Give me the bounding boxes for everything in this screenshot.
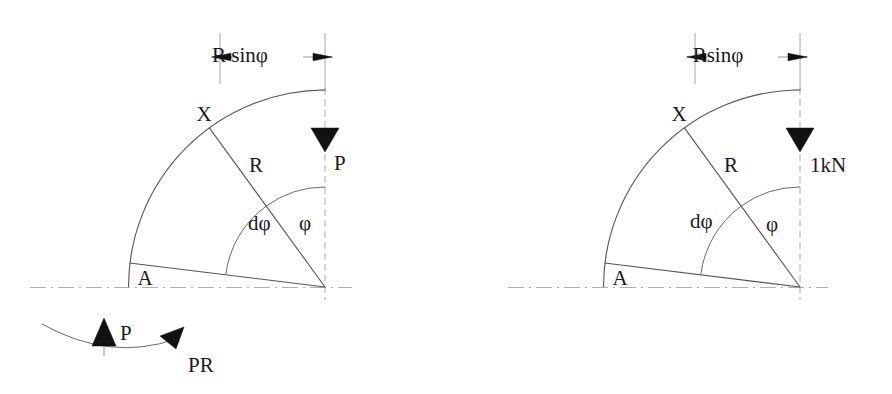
right-point-x-label: X — [671, 102, 686, 126]
left-point-x-label: X — [196, 102, 211, 126]
left-reaction-arrow — [92, 318, 116, 346]
right-angle-arc-phi — [741, 187, 800, 206]
left-radius-label: R — [249, 153, 263, 177]
left-angle-dphi-label: dφ — [248, 211, 271, 235]
left-load-arrow — [311, 128, 339, 152]
left-angle-arc-phi — [266, 187, 325, 206]
right-radius-to-x — [684, 128, 800, 287]
left-diagram-group: X A R dφ φ P R sinφ P PR — [30, 33, 352, 377]
right-radius-label: R — [724, 153, 738, 177]
left-moment-arrow — [160, 327, 184, 349]
left-load-label: P — [334, 151, 346, 175]
right-angle-dphi-label: dφ — [690, 209, 713, 233]
left-dimension-label: R sinφ — [212, 43, 268, 67]
left-outer-arc — [129, 90, 326, 287]
right-dim-arrow-right — [788, 53, 807, 61]
right-diagram-group: X A R dφ φ 1kN Rsinφ — [508, 33, 846, 300]
right-dimension-label: Rsinφ — [693, 43, 744, 67]
right-point-a-label: A — [612, 266, 628, 290]
right-angle-phi-label: φ — [766, 212, 778, 236]
engineering-diagram-svg: .arcline { fill: none; stroke: #555555; … — [0, 0, 892, 394]
left-point-a-label: A — [137, 266, 153, 290]
right-load-label: 1kN — [810, 153, 846, 177]
figure-canvas: .arcline { fill: none; stroke: #555555; … — [0, 0, 892, 394]
left-radius-to-x — [209, 128, 325, 287]
right-outer-arc — [604, 90, 801, 287]
left-reaction-label: P — [120, 321, 132, 345]
left-moment-label: PR — [188, 353, 214, 377]
left-angle-phi-label: φ — [299, 211, 311, 235]
right-load-arrow — [786, 128, 814, 152]
left-dim-arrow-right — [313, 53, 332, 61]
